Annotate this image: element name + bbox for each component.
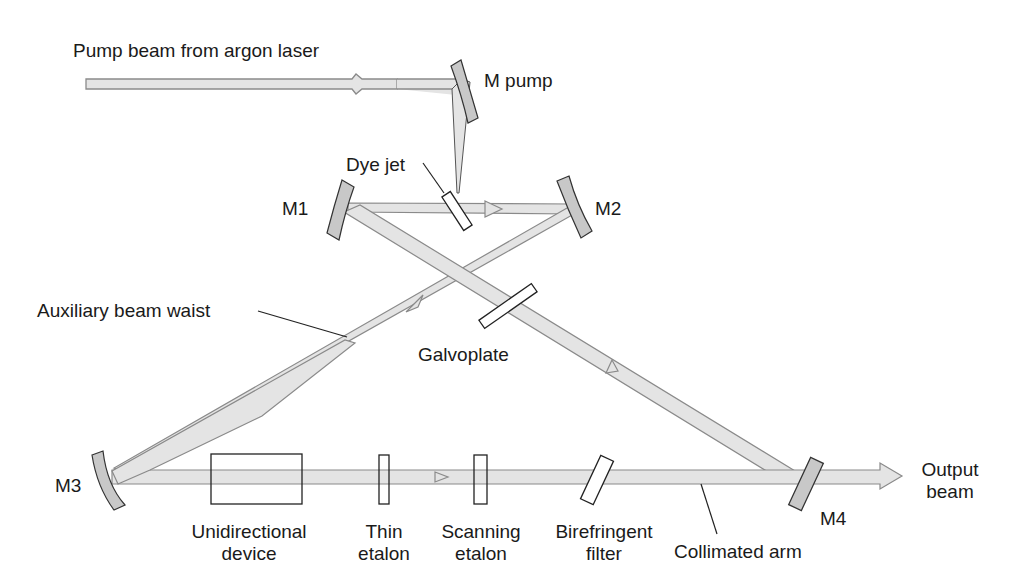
m1-label: M1 xyxy=(282,198,308,220)
dye-jet-leader xyxy=(423,163,444,193)
m3-m2-beam xyxy=(112,340,355,484)
biref-line1: Birefringent xyxy=(555,521,652,543)
scanning-line2: etalon xyxy=(441,543,520,565)
aux-waist-leader xyxy=(258,311,347,337)
thin-line2: etalon xyxy=(358,543,410,565)
galvoplate-label: Galvoplate xyxy=(418,344,509,366)
pump-beam xyxy=(86,74,470,193)
pump-beam-label: Pump beam from argon laser xyxy=(73,40,319,62)
m-pump-label: M pump xyxy=(484,70,553,92)
collimated-arm-leader xyxy=(701,484,717,534)
output-line2: beam xyxy=(921,481,978,503)
collimated-arm-label: Collimated arm xyxy=(674,541,802,563)
m4-label: M4 xyxy=(820,508,846,530)
aux-waist-label: Auxiliary beam waist xyxy=(37,300,210,322)
scanning-line1: Scanning xyxy=(441,521,520,543)
unidirectional-line2: device xyxy=(191,543,306,565)
thin-etalon-label: Thin etalon xyxy=(358,521,410,565)
output-line1: Output xyxy=(921,459,978,481)
unidirectional-device-label: Unidirectional device xyxy=(191,521,306,565)
m3-label: M3 xyxy=(55,475,81,497)
ring-laser-diagram: Pump beam from argon laser M pump Dye je… xyxy=(0,0,1018,588)
m2-label: M2 xyxy=(595,198,621,220)
output-beam-label: Output beam xyxy=(921,459,978,503)
scanning-etalon-label: Scanning etalon xyxy=(441,521,520,565)
birefringent-filter-label: Birefringent filter xyxy=(555,521,652,565)
dye-jet-label: Dye jet xyxy=(346,154,405,176)
unidirectional-line1: Unidirectional xyxy=(191,521,306,543)
thin-line1: Thin xyxy=(358,521,410,543)
biref-line2: filter xyxy=(555,543,652,565)
